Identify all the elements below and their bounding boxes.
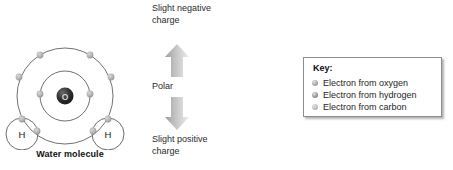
electron-outer-4 xyxy=(108,74,115,81)
key-item-oxygen: Electron from oxygen xyxy=(311,77,441,89)
key-item-carbon: Electron from carbon xyxy=(311,101,441,113)
slight-negative-charge-label: Slight negative charge xyxy=(152,3,226,26)
key-item-hydrogen: Electron from hydrogen xyxy=(311,89,441,101)
molecule-svg: O H H xyxy=(0,0,140,150)
electron-inner-right xyxy=(87,91,94,98)
electron-outer-6 xyxy=(105,116,112,123)
key-item-label: Electron from oxygen xyxy=(323,77,408,89)
hydrogen-left-label: H xyxy=(19,129,26,140)
electron-outer-5 xyxy=(19,116,26,123)
oxygen-nucleus-label: O xyxy=(62,92,69,102)
electron-shared-right xyxy=(90,128,97,135)
key-item-label: Electron from hydrogen xyxy=(323,89,417,101)
key-item-list: Electron from oxygen Electron from hydro… xyxy=(311,77,441,113)
water-molecule-diagram: O H H Water molecule xyxy=(0,0,140,170)
hydrogen-right-label: H xyxy=(105,129,112,140)
electron-carbon-dot-icon xyxy=(312,104,318,110)
water-molecule-caption: Water molecule xyxy=(0,149,140,159)
polar-label: Polar xyxy=(152,81,226,93)
arrow-up-icon xyxy=(164,43,190,77)
electron-outer-2 xyxy=(87,52,94,59)
polarity-indicator: Slight negative charge Polar xyxy=(152,0,226,170)
electron-oxygen-dot-icon xyxy=(312,80,318,86)
electron-hydrogen-dot-icon xyxy=(312,92,318,98)
arrow-down-icon xyxy=(164,97,190,131)
electron-outer-3 xyxy=(16,74,23,81)
key-item-label: Electron from carbon xyxy=(323,101,407,113)
key-title: Key: xyxy=(313,63,333,73)
electron-inner-left xyxy=(37,91,44,98)
electron-shared-left xyxy=(34,128,41,135)
slight-positive-charge-label: Slight positive charge xyxy=(152,134,226,157)
electron-outer-1 xyxy=(37,52,44,59)
key-legend-box: Key: Electron from oxygen Electron from … xyxy=(303,57,442,117)
